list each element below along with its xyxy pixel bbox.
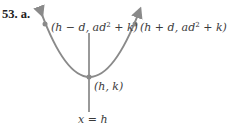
right-point-label: (h + d, ad2 + k) [140,19,227,34]
axis-label: x = h [78,114,108,126]
vertex-label: (h, k) [94,81,123,93]
left-point-dot [43,22,48,27]
vertex-dot [87,75,92,80]
left-point-label: (h − d, ad2 + k) [51,19,138,34]
